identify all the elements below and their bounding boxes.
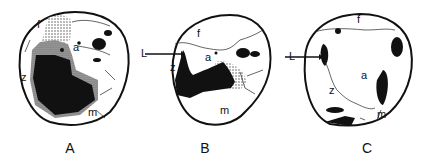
label-f: f [37,19,40,30]
label-m: m [377,109,386,120]
caption-c: C [357,140,377,156]
label-z: z [170,62,176,73]
label-f: f [357,14,360,25]
label-m: m [88,107,97,118]
panel-c: L f a z m C [285,0,430,165]
label-a: a [205,52,211,63]
caption-b: B [195,140,215,156]
panel-b: L f a z m B [145,0,290,165]
label-z: z [21,72,27,83]
caption-a: A [60,140,80,156]
label-a: a [73,42,79,53]
label-a: a [361,70,367,81]
panel-a: f a z m A [0,0,145,165]
label-z: z [329,85,335,96]
cell-cross-section-b [145,0,290,165]
label-l: L [289,51,295,62]
label-l: L [141,48,147,59]
label-m: m [220,105,229,116]
label-f: f [197,28,200,39]
